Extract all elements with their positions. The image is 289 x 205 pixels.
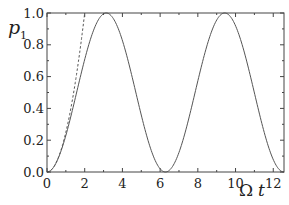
x-tick-label: 8 bbox=[194, 176, 202, 191]
chart: p 1 Ω t 0.00.20.40.60.81.0 024681012 bbox=[0, 0, 289, 205]
x-tick-label: 6 bbox=[156, 176, 164, 191]
x-tick-label: 12 bbox=[265, 176, 282, 191]
series-exact-line bbox=[47, 13, 284, 172]
plot-frame bbox=[47, 13, 284, 172]
x-tick-label: 10 bbox=[227, 176, 244, 191]
y-tick-label: 0.2 bbox=[23, 133, 44, 148]
y-tick-label: 1.0 bbox=[23, 6, 44, 21]
x-tick-label: 0 bbox=[43, 176, 51, 191]
x-axis-label-t: t bbox=[258, 180, 265, 200]
axis-ticks bbox=[47, 13, 284, 172]
x-tick-label: 4 bbox=[118, 176, 126, 191]
plot-series bbox=[47, 13, 284, 172]
y-tick-label: 0.0 bbox=[23, 165, 44, 180]
y-tick-label: 0.4 bbox=[23, 101, 44, 116]
y-tick-label: 0.6 bbox=[23, 69, 44, 84]
y-tick-label: 0.8 bbox=[23, 37, 44, 52]
series-approx-dashed-line bbox=[47, 13, 85, 172]
y-axis-label-main: p bbox=[8, 16, 20, 38]
x-tick-label: 2 bbox=[81, 176, 89, 191]
